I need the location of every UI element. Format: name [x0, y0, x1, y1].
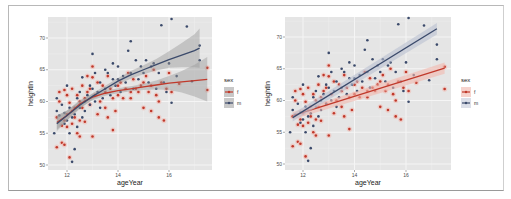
data-point-m [91, 53, 94, 56]
data-point-m [325, 83, 328, 86]
legend-item-f: f [224, 87, 239, 97]
y-tick-label: 55 [276, 129, 282, 135]
data-point-m [291, 109, 294, 112]
data-point-m [397, 23, 400, 26]
data-point-f [99, 100, 102, 103]
data-point-m [394, 71, 397, 74]
data-point-f [382, 74, 385, 77]
data-point-f [129, 97, 132, 100]
data-point-f [304, 155, 307, 158]
data-point-m [402, 90, 405, 93]
data-point-m [112, 62, 115, 65]
data-point-m [73, 148, 76, 151]
right-chart-panel: 5055606570121416 ageYear heightIn sex f … [264, 17, 478, 187]
data-point-f [168, 72, 171, 75]
data-point-f [299, 118, 302, 121]
legend-item-m: m [224, 98, 241, 108]
data-point-f [86, 75, 89, 78]
data-point-f [142, 81, 145, 84]
data-point-m [312, 125, 315, 128]
data-point-f [68, 156, 71, 159]
data-point-f [394, 99, 397, 102]
data-point-f [343, 74, 346, 77]
left-chart-panel: 5055606570121416 ageYear heightIn sex f … [27, 17, 241, 187]
data-point-m [145, 59, 148, 62]
data-point-m [89, 103, 92, 106]
data-point-m [68, 132, 71, 135]
data-point-m [371, 58, 374, 61]
data-point-f [327, 134, 330, 137]
data-point-m [317, 115, 320, 118]
data-point-f [327, 75, 330, 78]
data-point-m [353, 64, 356, 67]
data-point-m [312, 96, 315, 99]
data-point-f [91, 65, 94, 68]
data-point-f [340, 106, 343, 109]
data-point-m [137, 78, 140, 81]
data-point-m [307, 115, 310, 118]
data-point-m [78, 91, 81, 94]
data-point-f [315, 134, 318, 137]
data-point-m [99, 81, 102, 84]
data-point-m [374, 77, 377, 80]
data-point-f [150, 110, 153, 113]
legend: sex f m [224, 77, 241, 108]
data-point-f [91, 76, 94, 79]
data-point-f [361, 87, 364, 90]
data-point-f [407, 90, 410, 93]
data-point-m [112, 78, 115, 81]
data-point-f [317, 83, 320, 86]
data-point-f [112, 129, 115, 132]
data-point-m [94, 72, 97, 75]
data-point-f [155, 94, 158, 97]
data-point-m [56, 110, 59, 113]
data-point-m [387, 64, 390, 67]
data-point-f [394, 115, 397, 118]
data-point-m [364, 48, 367, 51]
data-point-m [56, 97, 59, 100]
data-point-f [299, 142, 302, 145]
data-point-m [165, 91, 168, 94]
data-point-m [407, 100, 410, 103]
data-point-f [312, 93, 315, 96]
data-point-f [56, 146, 59, 149]
data-point-f [297, 123, 300, 126]
data-point-m [436, 58, 439, 61]
data-point-m [66, 84, 69, 87]
data-point-f [387, 109, 390, 112]
data-point-m [89, 84, 92, 87]
data-point-f [322, 74, 325, 77]
legend-label-m: m [237, 100, 241, 106]
data-point-f [315, 118, 318, 121]
data-point-f [302, 125, 305, 128]
data-point-f [304, 100, 307, 103]
data-point-f [122, 97, 125, 100]
data-point-f [379, 80, 382, 83]
data-point-f [84, 121, 87, 124]
data-point-f [307, 87, 310, 90]
legend-label-m: m [474, 100, 478, 106]
data-point-m [348, 61, 351, 64]
data-point-f [117, 94, 120, 97]
y-tick-label: 50 [276, 161, 282, 167]
data-point-f [294, 90, 297, 93]
data-point-f [71, 88, 74, 91]
data-point-m [361, 80, 364, 83]
data-point-m [127, 49, 130, 52]
data-point-m [61, 103, 64, 106]
data-point-f [137, 91, 140, 94]
data-point-f [309, 115, 312, 118]
data-point-f [58, 91, 61, 94]
x-tick-label: 14 [352, 172, 358, 178]
y-tick-label: 50 [39, 162, 45, 168]
legend-item-m: m [461, 98, 478, 108]
data-point-f [158, 100, 161, 103]
data-point-m [94, 100, 97, 103]
data-point-m [299, 121, 302, 124]
data-point-f [66, 126, 69, 129]
data-point-f [333, 80, 336, 83]
data-point-f [351, 109, 354, 112]
data-point-f [142, 107, 145, 110]
data-point-m [117, 65, 120, 68]
y-tick-label: 70 [39, 35, 45, 41]
